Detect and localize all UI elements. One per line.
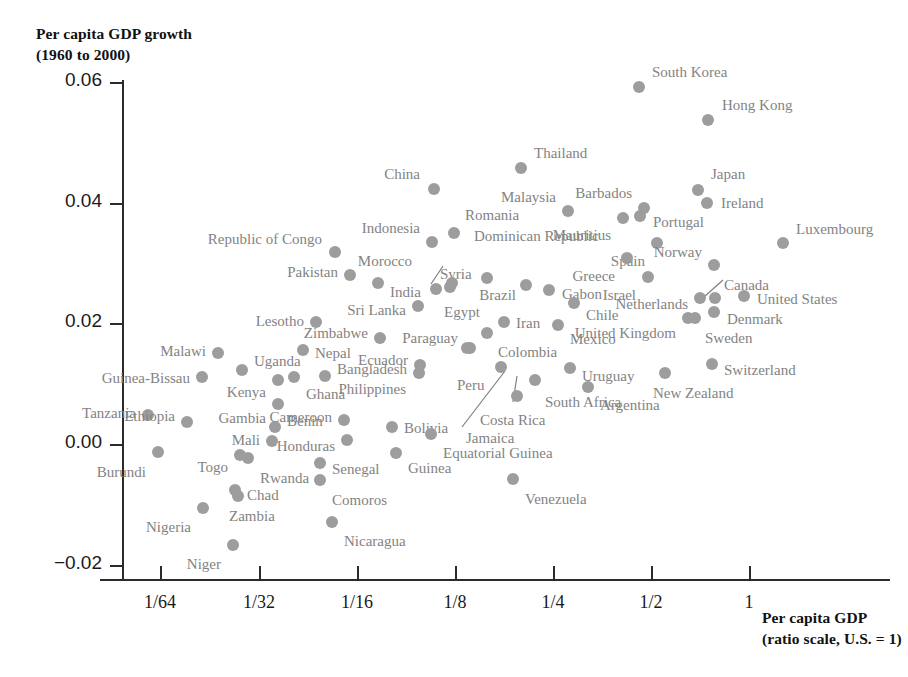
data-point[interactable] bbox=[461, 342, 473, 354]
data-point[interactable] bbox=[694, 292, 706, 304]
data-point[interactable] bbox=[498, 316, 510, 328]
data-point[interactable] bbox=[344, 269, 356, 281]
x-tick-label: 1/4 bbox=[518, 592, 588, 613]
data-point[interactable] bbox=[181, 416, 193, 428]
y-tick-label: 0.02 bbox=[10, 310, 102, 332]
data-point[interactable] bbox=[232, 490, 244, 502]
data-point[interactable] bbox=[582, 381, 594, 393]
data-point[interactable] bbox=[692, 184, 704, 196]
data-point[interactable] bbox=[568, 297, 580, 309]
data-point-label: Malaysia bbox=[501, 189, 556, 206]
y-tick-label: 0.00 bbox=[10, 431, 102, 453]
data-point[interactable] bbox=[197, 502, 209, 514]
data-point-label: Kenya bbox=[227, 384, 266, 401]
data-point-label: Gambia bbox=[219, 410, 266, 427]
data-point-label: Mexico bbox=[570, 331, 616, 348]
data-point[interactable] bbox=[634, 210, 646, 222]
data-point[interactable] bbox=[448, 227, 460, 239]
data-point[interactable] bbox=[413, 367, 425, 379]
data-point[interactable] bbox=[446, 277, 458, 289]
data-point[interactable] bbox=[706, 358, 718, 370]
data-point-label: Nicaragua bbox=[344, 533, 406, 550]
data-point[interactable] bbox=[552, 319, 564, 331]
data-point[interactable] bbox=[495, 361, 507, 373]
data-point[interactable] bbox=[314, 474, 326, 486]
data-point[interactable] bbox=[564, 362, 576, 374]
y-tick-mark bbox=[110, 565, 123, 567]
data-point-label: Greece bbox=[573, 268, 615, 285]
data-point[interactable] bbox=[236, 364, 248, 376]
data-point-label: Norway bbox=[654, 244, 702, 261]
data-point[interactable] bbox=[659, 367, 671, 379]
data-point[interactable] bbox=[341, 434, 353, 446]
data-point[interactable] bbox=[152, 446, 164, 458]
data-point-label: Romania bbox=[465, 207, 519, 224]
data-point-label: Ethiopia bbox=[124, 408, 175, 425]
data-point-label: Thailand bbox=[534, 145, 587, 162]
data-point[interactable] bbox=[701, 197, 713, 209]
data-point[interactable] bbox=[196, 371, 208, 383]
data-point-label: Republic of Congo bbox=[208, 231, 322, 248]
data-point[interactable] bbox=[374, 332, 386, 344]
y-tick-mark bbox=[110, 444, 123, 446]
data-point[interactable] bbox=[314, 457, 326, 469]
data-point-label: Equatorial Guinea bbox=[443, 445, 553, 462]
data-point[interactable] bbox=[426, 236, 438, 248]
data-point[interactable] bbox=[515, 162, 527, 174]
data-point[interactable] bbox=[633, 81, 645, 93]
data-point-label: Pakistan bbox=[287, 264, 338, 281]
data-point[interactable] bbox=[529, 374, 541, 386]
data-point[interactable] bbox=[481, 272, 493, 284]
data-point-label: Comoros bbox=[332, 492, 387, 509]
data-point[interactable] bbox=[708, 259, 720, 271]
data-point[interactable] bbox=[338, 414, 350, 426]
data-point[interactable] bbox=[617, 212, 629, 224]
data-point[interactable] bbox=[329, 246, 341, 258]
data-point[interactable] bbox=[708, 306, 720, 318]
data-point[interactable] bbox=[702, 114, 714, 126]
data-point[interactable] bbox=[777, 237, 789, 249]
data-point-label: Argentina bbox=[600, 397, 660, 414]
data-point[interactable] bbox=[386, 421, 398, 433]
data-point[interactable] bbox=[682, 312, 694, 324]
x-axis-title-line2: (ratio scale, U.S. = 1) bbox=[762, 630, 902, 647]
data-point[interactable] bbox=[242, 452, 254, 464]
data-point[interactable] bbox=[428, 183, 440, 195]
data-point-label: Uganda bbox=[254, 353, 301, 370]
x-tick-mark bbox=[160, 566, 162, 579]
data-point-label: Philippines bbox=[338, 381, 406, 398]
data-point[interactable] bbox=[319, 370, 331, 382]
data-point[interactable] bbox=[227, 539, 239, 551]
data-point[interactable] bbox=[390, 447, 402, 459]
data-point[interactable] bbox=[425, 428, 437, 440]
data-point[interactable] bbox=[430, 283, 442, 295]
x-tick-label: 1/64 bbox=[125, 592, 195, 613]
data-point-label: Cameroon bbox=[270, 409, 332, 426]
data-point[interactable] bbox=[412, 300, 424, 312]
data-point[interactable] bbox=[272, 374, 284, 386]
data-point[interactable] bbox=[520, 279, 532, 291]
scatter-chart: Per capita GDP growth(1960 to 2000) Per … bbox=[0, 0, 908, 677]
data-point[interactable] bbox=[511, 390, 523, 402]
data-point-label: Hong Kong bbox=[722, 97, 792, 114]
data-point[interactable] bbox=[621, 252, 633, 264]
data-point[interactable] bbox=[372, 277, 384, 289]
data-point-label: Costa Rica bbox=[480, 412, 545, 429]
data-point-label: Zambia bbox=[229, 508, 275, 525]
data-point[interactable] bbox=[709, 292, 721, 304]
data-point[interactable] bbox=[642, 271, 654, 283]
data-point[interactable] bbox=[326, 516, 338, 528]
x-tick-mark bbox=[357, 566, 359, 579]
data-point[interactable] bbox=[212, 347, 224, 359]
data-point[interactable] bbox=[288, 371, 300, 383]
data-point[interactable] bbox=[738, 290, 750, 302]
data-point-label: Dominican Republic bbox=[474, 228, 599, 245]
data-point[interactable] bbox=[562, 205, 574, 217]
data-point[interactable] bbox=[266, 435, 278, 447]
data-point-label: Bangladesh bbox=[337, 361, 407, 378]
data-point[interactable] bbox=[543, 284, 555, 296]
data-point[interactable] bbox=[481, 327, 493, 339]
x-tick-label: 1 bbox=[714, 592, 784, 613]
y-axis-line bbox=[122, 80, 124, 580]
data-point[interactable] bbox=[507, 473, 519, 485]
